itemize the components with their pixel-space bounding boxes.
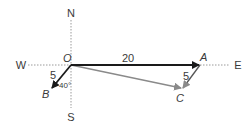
point-b-label: B (42, 88, 49, 100)
point-a-label: A (199, 51, 207, 63)
west-label: W (16, 59, 27, 71)
point-o-label: O (63, 52, 72, 64)
length-ac-label: 5 (183, 70, 189, 82)
vector-oc (71, 65, 181, 88)
length-oa-label: 20 (122, 52, 134, 64)
east-label: E (234, 59, 241, 71)
north-label: N (67, 7, 75, 19)
south-label: S (67, 111, 74, 123)
vector-diagram: N S W E O A B C 20 5 5 40° (0, 0, 247, 132)
point-c-label: C (176, 92, 184, 104)
length-ob-label: 5 (50, 69, 56, 81)
angle-label: 40° (59, 81, 71, 90)
